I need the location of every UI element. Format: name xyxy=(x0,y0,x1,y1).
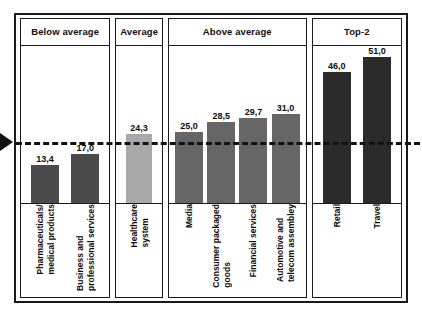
category-label: Consumer packaged goods xyxy=(211,204,232,288)
panel-container: Below average13,417,0Pharmaceuticals/ me… xyxy=(20,18,402,298)
category-label: Business and professional services xyxy=(75,204,96,291)
panel-title: Above average xyxy=(169,19,306,46)
category-label: Automotive and telecom assembley xyxy=(275,204,296,282)
bar-column: 24,3 xyxy=(126,46,152,203)
bar-value-label: 29,7 xyxy=(245,107,263,117)
plot-area: 24,3 xyxy=(116,46,162,203)
bar-column: 28,5 xyxy=(207,46,235,203)
panel-above-average: Above average25,028,529,731,0MediaConsum… xyxy=(168,18,307,298)
panel-title: Below average xyxy=(21,19,109,46)
category-label-slot: Consumer packaged goods xyxy=(207,204,235,297)
category-label-band: Healthcare system xyxy=(116,203,162,297)
category-label-slot: Pharmaceuticals/ medical products xyxy=(31,204,59,297)
category-label-slot: Healthcare system xyxy=(126,204,152,297)
bar-column: 13,4 xyxy=(31,46,59,203)
panel-average: Average24,3Healthcare system xyxy=(115,18,163,298)
category-label: Media xyxy=(184,204,195,228)
category-label-band: Pharmaceuticals/ medical productsBusines… xyxy=(21,203,109,297)
bar-column: 25,0 xyxy=(175,46,203,203)
bar-column: 17,0 xyxy=(71,46,99,203)
bar-column: 31,0 xyxy=(272,46,300,203)
category-label: Travel xyxy=(372,204,383,229)
bar xyxy=(207,122,235,203)
plot-area: 13,417,0 xyxy=(21,46,109,203)
bar xyxy=(126,134,152,203)
bar xyxy=(239,118,267,203)
panel-title: Average xyxy=(116,19,162,46)
category-label: Pharmaceuticals/ medical products xyxy=(35,204,56,274)
category-label-band: RetailTravel xyxy=(313,203,401,297)
category-label-slot: Travel xyxy=(363,204,391,297)
category-label-band: MediaConsumer packaged goodsFinancial se… xyxy=(169,203,306,297)
category-label-slot: Media xyxy=(175,204,203,297)
bar-value-label: 46,0 xyxy=(328,61,346,71)
bar xyxy=(71,154,99,203)
bar xyxy=(175,132,203,203)
category-label: Financial services xyxy=(248,204,259,277)
category-label-slot: Financial services xyxy=(239,204,267,297)
bar-value-label: 28,5 xyxy=(212,111,230,121)
bar xyxy=(31,165,59,203)
bar-value-label: 13,4 xyxy=(36,154,54,164)
bar-column: 46,0 xyxy=(323,46,351,203)
bar-value-label: 17,0 xyxy=(76,143,94,153)
category-label: Healthcare system xyxy=(129,204,150,247)
category-label-slot: Business and professional services xyxy=(71,204,99,297)
panel-top-2: Top-246,051,0RetailTravel xyxy=(312,18,402,298)
bar-value-label: 24,3 xyxy=(130,123,148,133)
panel-below-average: Below average13,417,0Pharmaceuticals/ me… xyxy=(20,18,110,298)
bar xyxy=(363,57,391,203)
bar-value-label: 31,0 xyxy=(277,103,295,113)
panel-title: Top-2 xyxy=(313,19,401,46)
grouped-bar-chart: Below average13,417,0Pharmaceuticals/ me… xyxy=(0,0,422,322)
category-label: Retail xyxy=(332,204,343,227)
reference-line-marker-triangle-icon xyxy=(0,133,13,151)
bar-value-label: 25,0 xyxy=(180,121,198,131)
bar-column: 51,0 xyxy=(363,46,391,203)
bar xyxy=(272,114,300,203)
plot-area: 25,028,529,731,0 xyxy=(169,46,306,203)
plot-area: 46,051,0 xyxy=(313,46,401,203)
bar-column: 29,7 xyxy=(239,46,267,203)
category-label-slot: Retail xyxy=(323,204,351,297)
bar-value-label: 51,0 xyxy=(368,46,386,56)
category-label-slot: Automotive and telecom assembley xyxy=(272,204,300,297)
bar xyxy=(323,72,351,203)
